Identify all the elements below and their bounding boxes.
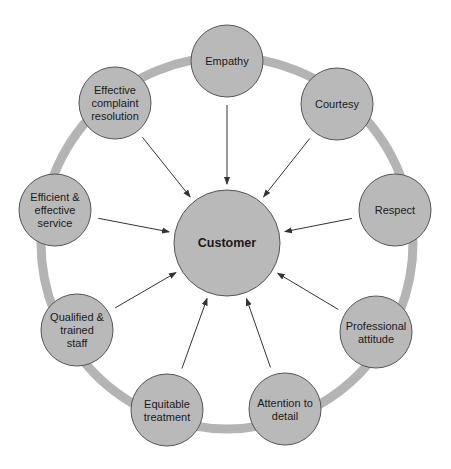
node-attention-to-detail: Attention todetail — [249, 373, 321, 445]
node-label: treatment — [144, 411, 190, 423]
node-label: detail — [272, 410, 298, 422]
node-respect: Respect — [359, 174, 431, 246]
node-label: Courtesy — [315, 98, 360, 110]
arrow-efficient-effective-service — [98, 218, 169, 232]
node-label: complaint — [91, 97, 138, 109]
node-label: Effective — [94, 84, 136, 96]
node-efficient-effective-service: Efficient &effectiveservice — [19, 174, 91, 246]
node-courtesy: Courtesy — [301, 68, 373, 140]
arrow-respect — [285, 218, 352, 231]
node-label: trained — [60, 324, 94, 336]
customer-service-diagram: EmpathyCourtesyRespectProfessionalattitu… — [0, 0, 451, 469]
arrow-equitable-treatment — [182, 299, 207, 369]
node-label: Qualified & — [50, 311, 104, 323]
node-label: Efficient & — [30, 191, 80, 203]
node-professional-attitude: Professionalattitude — [340, 296, 412, 368]
node-label: Empathy — [205, 55, 249, 67]
node-empathy: Empathy — [191, 25, 263, 97]
arrow-effective-complaint-resolution — [142, 137, 190, 197]
arrow-professional-attitude — [278, 273, 339, 309]
node-label: Respect — [375, 204, 415, 216]
arrow-attention-to-detail — [246, 299, 270, 368]
node-label: Equitable — [144, 398, 190, 410]
node-label: staff — [67, 337, 89, 349]
node-equitable-treatment: Equitabletreatment — [131, 374, 203, 446]
node-label: Professional — [346, 320, 407, 332]
node-label: service — [38, 217, 73, 229]
arrow-qualified-trained-staff — [115, 273, 176, 308]
node-label: effective — [35, 204, 76, 216]
node-qualified-trained-staff: Qualified &trainedstaff — [41, 294, 113, 366]
node-label: resolution — [91, 110, 139, 122]
center-node: Customer — [174, 190, 280, 296]
customer-label: Customer — [198, 236, 256, 250]
node-effective-complaint-resolution: Effectivecomplaintresolution — [79, 67, 151, 139]
node-label: Attention to — [257, 397, 313, 409]
node-label: attitude — [358, 333, 394, 345]
arrow-courtesy — [264, 139, 310, 197]
